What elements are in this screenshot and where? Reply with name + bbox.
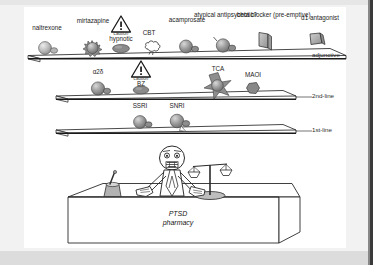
pharmacist-figure-icon bbox=[136, 146, 205, 197]
counter-label-pharmacy: pharmacy bbox=[148, 219, 208, 226]
label-alpha1-antagonist: α1 antagonist bbox=[298, 15, 342, 22]
icon-hypnotic bbox=[113, 44, 130, 52]
ptsd-pharmacy-figure: naltrexone mirtazapine caution hypnotic … bbox=[0, 0, 373, 265]
counter-label-ptsd: PTSD bbox=[148, 210, 208, 217]
icon-ssri bbox=[134, 116, 152, 129]
icon-naltrexone bbox=[39, 42, 58, 55]
label-cbt: CBT bbox=[138, 30, 160, 37]
label-maoi: MAOI bbox=[239, 72, 267, 79]
label-ssri: SSRI bbox=[127, 103, 153, 110]
shelf-second-line bbox=[56, 91, 296, 103]
label-tca: TCA bbox=[205, 66, 231, 73]
caution-triangle-bz-icon bbox=[132, 61, 151, 77]
icon-alpha1-antagonist bbox=[310, 33, 325, 45]
tier-label-adjunctive: adjunctive bbox=[312, 52, 358, 59]
label-naltrexone: naltrexone bbox=[24, 25, 70, 32]
icon-acamprosate bbox=[180, 40, 199, 53]
label-alpha2delta: α2δ bbox=[84, 69, 112, 76]
icon-alpha2delta bbox=[91, 82, 110, 95]
label-snri: SNRI bbox=[164, 103, 190, 110]
tier-label-first-line: 1st-line bbox=[312, 127, 358, 134]
mortar-pestle-icon bbox=[104, 170, 121, 196]
label-hypnotic: hypnotic bbox=[104, 36, 138, 43]
icon-atypical-antipsychotic bbox=[214, 37, 236, 52]
label-mirtazapine: mirtazapine bbox=[65, 18, 121, 25]
icon-beta-blocker bbox=[259, 33, 272, 51]
tier-label-second-line: 2nd-line bbox=[312, 93, 358, 100]
icon-mirtazapine bbox=[83, 41, 102, 57]
label-beta-blocker: beta blocker (pre-emptive) bbox=[237, 12, 299, 19]
label-bz: BZ bbox=[130, 81, 152, 88]
